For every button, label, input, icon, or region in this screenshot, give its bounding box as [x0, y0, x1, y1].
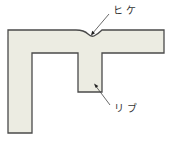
sink-mark-label: ヒケ: [113, 6, 139, 16]
molded-part-cross-section: [8, 30, 164, 133]
cross-section-diagram: [0, 0, 170, 145]
rib-label: リブ: [114, 104, 140, 114]
